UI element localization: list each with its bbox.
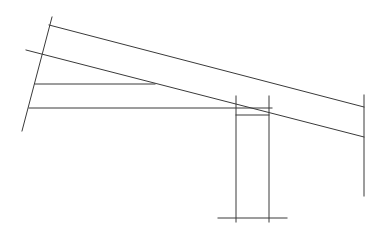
upper-rafter-edge [49,25,364,107]
left-slanted-end-line [22,17,52,131]
roof-rafter-diagram [0,0,383,235]
